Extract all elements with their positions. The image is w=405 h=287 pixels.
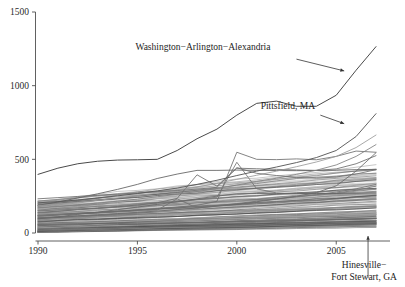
x-tick-label: 2005	[327, 246, 346, 256]
y-tick-label: 1500	[10, 7, 29, 17]
x-tick-label: 1990	[29, 246, 48, 256]
annotation-label-pittsfield-ma: Pittsfield, MA	[261, 101, 316, 111]
annotation-label-washington-arlington-alexandria: Washington−Arlington−Alexandria	[135, 42, 271, 52]
annotation-pittsfield-arrow-head	[340, 121, 344, 124]
y-tick-label: 0	[24, 228, 29, 238]
annotation-washington-arrow-shaft	[296, 59, 344, 71]
x-tick-label: 2000	[227, 246, 246, 256]
series-line-washington-arlington-alexandria	[38, 47, 376, 175]
chart-container: 0500100015001990199520002005 Washington−…	[0, 0, 405, 287]
x-tick-label: 1995	[128, 246, 147, 256]
y-tick-label: 500	[15, 155, 30, 165]
annotation-layer: Washington−Arlington−AlexandriaPittsfiel…	[135, 42, 397, 282]
annotation-label-hinesville-line1: Hinesville−	[342, 260, 386, 270]
y-tick-label: 1000	[10, 81, 29, 91]
line-chart: 0500100015001990199520002005 Washington−…	[0, 0, 405, 287]
annotation-label-hinesville-line2: Fort Stewart, GA	[331, 272, 397, 282]
annotation-hinesville-arrow-head	[366, 236, 369, 240]
